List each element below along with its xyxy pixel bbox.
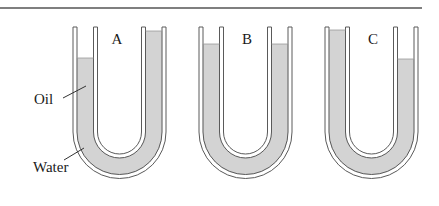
u-tube-b <box>199 27 292 179</box>
liquid-fill <box>85 27 154 166</box>
u-tube-diagram: A B C Oil Water <box>0 0 439 206</box>
tube-label-c: C <box>368 31 378 47</box>
diagram-canvas: A B C Oil Water <box>0 0 439 206</box>
water-label: Water <box>33 159 68 175</box>
liquid-fill <box>211 27 280 166</box>
u-tube-a <box>73 27 166 179</box>
oil-label: Oil <box>34 91 53 107</box>
tube-label-a: A <box>112 31 123 47</box>
liquid-fill <box>337 27 406 166</box>
tube-label-b: B <box>242 31 252 47</box>
u-tube-c <box>325 27 418 179</box>
